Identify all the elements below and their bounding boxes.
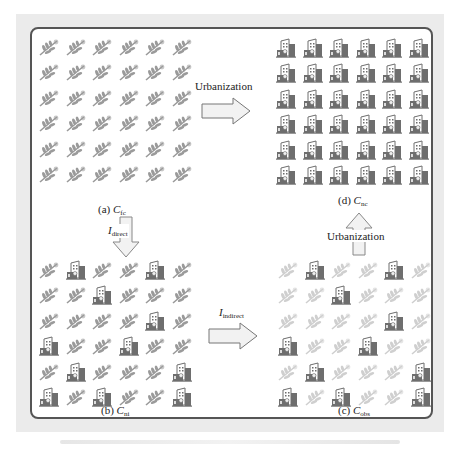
building-icon (379, 112, 406, 138)
wheat-icon (116, 283, 143, 309)
building-icon (142, 257, 169, 283)
wheat-icon (142, 85, 169, 111)
building-icon (408, 385, 435, 411)
figure-frame: (a) Cfc (30, 27, 433, 419)
building-icon (302, 359, 329, 385)
wheat-icon (36, 85, 63, 111)
arrow-right-urbanization-icon (201, 97, 251, 125)
wheat-icon (142, 359, 169, 385)
building-icon (300, 61, 327, 87)
building-icon (406, 112, 433, 138)
wheat-icon (36, 111, 63, 137)
wheat-icon (381, 359, 408, 385)
wheat-icon (169, 136, 196, 162)
wheat-icon (89, 257, 116, 283)
wheat-icon (302, 385, 329, 411)
wheat-icon (36, 308, 63, 334)
wheat-icon (63, 111, 90, 137)
wheat-icon (302, 334, 329, 360)
grid-panel-d (273, 35, 432, 188)
building-icon (326, 112, 353, 138)
figure-caption-blurred (60, 440, 400, 444)
wheat-icon (116, 34, 143, 60)
wheat-icon (63, 308, 90, 334)
wheat-icon (116, 308, 143, 334)
wheat-icon (142, 111, 169, 137)
panel-d-label: (d) Cnc (338, 194, 368, 208)
wheat-icon (169, 162, 196, 188)
wheat-icon (89, 359, 116, 385)
panel-a-label: (a) Cfc (98, 203, 126, 217)
i-indirect-label: Iindirect (219, 306, 244, 320)
wheat-icon (116, 136, 143, 162)
building-icon (63, 359, 90, 385)
urbanization-label-bottom: Urbanization (326, 230, 385, 242)
wheat-icon (381, 334, 408, 360)
building-icon (273, 112, 300, 138)
building-icon (300, 86, 327, 112)
building-icon (353, 35, 380, 61)
wheat-icon (408, 283, 435, 309)
building-icon (406, 86, 433, 112)
building-icon (381, 257, 408, 283)
wheat-icon (142, 136, 169, 162)
wheat-icon (89, 60, 116, 86)
grid-panel-c (275, 257, 434, 410)
wheat-icon (381, 385, 408, 411)
wheat-icon (63, 334, 90, 360)
building-icon (275, 334, 302, 360)
wheat-icon (116, 257, 143, 283)
wheat-icon (328, 334, 355, 360)
building-icon (169, 359, 196, 385)
wheat-icon (63, 34, 90, 60)
building-icon (379, 163, 406, 189)
wheat-icon (63, 162, 90, 188)
building-icon (273, 86, 300, 112)
wheat-icon (116, 111, 143, 137)
wheat-icon (275, 308, 302, 334)
wheat-icon (169, 308, 196, 334)
wheat-icon (116, 60, 143, 86)
wheat-icon (36, 162, 63, 188)
building-icon (328, 283, 355, 309)
wheat-icon (142, 385, 169, 411)
wheat-icon (63, 85, 90, 111)
building-icon (300, 163, 327, 189)
building-icon (353, 137, 380, 163)
wheat-icon (36, 283, 63, 309)
panel-c-label: (c) Cobs (338, 404, 370, 418)
building-icon (273, 35, 300, 61)
building-icon (379, 86, 406, 112)
wheat-icon (275, 359, 302, 385)
building-icon (353, 112, 380, 138)
urbanization-label-top: Urbanization (195, 80, 252, 92)
wheat-icon (89, 34, 116, 60)
i-direct-label: Idirect (107, 224, 129, 238)
wheat-icon (36, 34, 63, 60)
building-icon (406, 35, 433, 61)
panel-b-label: (b) Cni (101, 404, 129, 418)
wheat-icon (89, 85, 116, 111)
building-icon (326, 35, 353, 61)
building-icon (353, 61, 380, 87)
wheat-icon (169, 257, 196, 283)
wheat-icon (408, 334, 435, 360)
wheat-icon (36, 136, 63, 162)
building-icon (353, 86, 380, 112)
building-icon (406, 163, 433, 189)
wheat-icon (169, 334, 196, 360)
wheat-icon (89, 136, 116, 162)
wheat-icon (63, 60, 90, 86)
wheat-icon (142, 283, 169, 309)
building-icon (273, 137, 300, 163)
building-icon (379, 61, 406, 87)
wheat-icon (116, 85, 143, 111)
building-icon (302, 257, 329, 283)
building-icon (275, 385, 302, 411)
building-icon (300, 35, 327, 61)
building-icon (379, 35, 406, 61)
wheat-icon (142, 334, 169, 360)
wheat-icon (355, 283, 382, 309)
wheat-icon (142, 34, 169, 60)
wheat-icon (63, 385, 90, 411)
